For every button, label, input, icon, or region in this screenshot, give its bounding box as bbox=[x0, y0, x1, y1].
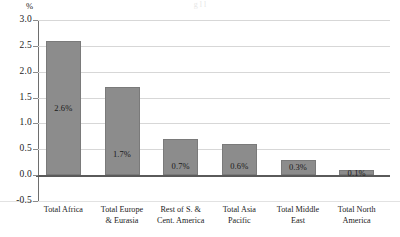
y-axis-tick-label: -0.5 bbox=[2, 195, 32, 205]
bar-value-label: 1.7% bbox=[97, 149, 148, 159]
bar-value-label: 0.7% bbox=[155, 161, 206, 171]
chart-page: g l l % 2.6%1.7%0.7%0.6%0.3%0.1% 3.02.52… bbox=[0, 0, 400, 237]
y-axis-tick-label: 0.5 bbox=[2, 143, 32, 153]
y-gridline bbox=[38, 46, 390, 47]
y-axis-tick bbox=[33, 149, 38, 150]
y-gridline bbox=[38, 149, 390, 150]
y-axis-tick-label: 3.0 bbox=[2, 14, 32, 24]
y-gridline bbox=[38, 20, 390, 21]
y-axis-tick bbox=[33, 20, 38, 21]
y-gridline bbox=[38, 98, 390, 99]
bar[interactable] bbox=[105, 87, 140, 175]
bar-value-label: 2.6% bbox=[38, 103, 89, 113]
bottom-divider bbox=[0, 201, 400, 202]
y-axis-tick bbox=[33, 72, 38, 73]
bar-value-label: 0.6% bbox=[214, 161, 265, 171]
x-axis-category-label: Total North America bbox=[320, 205, 393, 226]
y-axis-tick bbox=[33, 123, 38, 124]
y-axis-tick-label: 1.5 bbox=[2, 92, 32, 102]
y-axis-tick-label: 2.5 bbox=[2, 40, 32, 50]
y-axis-tick bbox=[33, 201, 38, 202]
bar-value-label: 0.3% bbox=[273, 162, 324, 172]
y-axis-tick bbox=[33, 98, 38, 99]
plot-area: 2.6%1.7%0.7%0.6%0.3%0.1% bbox=[38, 20, 390, 201]
cut-off-title-text: g l l bbox=[194, 0, 206, 9]
y-axis-tick-label: 1.0 bbox=[2, 117, 32, 127]
y-gridline bbox=[38, 123, 390, 124]
y-axis-tick bbox=[33, 46, 38, 47]
y-axis-tick-label: 0.0 bbox=[2, 169, 32, 179]
y-gridline bbox=[38, 72, 390, 73]
cut-off-title: g l l bbox=[0, 0, 400, 9]
bar-value-label: 0.1% bbox=[331, 168, 382, 178]
y-axis-tick bbox=[33, 175, 38, 176]
y-axis-unit-label: % bbox=[26, 1, 33, 11]
y-axis-tick-label: 2.0 bbox=[2, 66, 32, 76]
